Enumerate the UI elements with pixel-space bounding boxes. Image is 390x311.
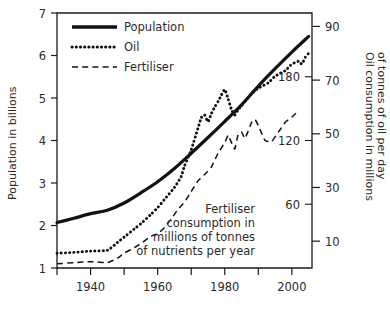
chart-svg: 1234567 1940196019802000 1030507090 6012… — [0, 0, 390, 311]
legend-label-fertiliser: Fertiliser — [124, 60, 174, 74]
left-tick-label: 6 — [39, 49, 46, 63]
right-inner-tick-label: 60 — [285, 198, 300, 212]
legend-label-population: Population — [124, 20, 184, 34]
left-tick-label: 5 — [39, 92, 46, 106]
left-axis-title-text: Population in billions — [6, 86, 19, 200]
chart-container: 1234567 1940196019802000 1030507090 6012… — [0, 0, 390, 311]
legend-label-oil: Oil — [124, 40, 139, 54]
right-axis-title-line2: of tonnes of oil per day — [375, 52, 388, 180]
fertiliser-annotation-line4: of nutrients per year — [136, 244, 255, 258]
legend: Population Oil Fertiliser — [72, 20, 184, 74]
left-tick-label: 7 — [39, 7, 46, 21]
left-tick-label: 1 — [39, 262, 46, 276]
left-tick-label: 3 — [39, 177, 46, 191]
bottom-axis-ticks: 1940196019802000 — [57, 268, 307, 294]
left-tick-label: 2 — [39, 219, 46, 233]
series-population-line — [57, 36, 309, 222]
right-outer-axis-ticks: 1030507090 — [312, 20, 340, 249]
right-outer-tick-label: 70 — [325, 74, 340, 88]
right-axis-title-line1: Oil consumption in millions — [363, 52, 376, 201]
fertiliser-annotation-line3: millions of tonnes — [153, 230, 255, 244]
fertiliser-annotation: Fertiliser consumption in millions of to… — [136, 202, 255, 258]
right-axis-title: Oil consumption in millions of tonnes of… — [363, 52, 388, 201]
right-outer-tick-label: 30 — [325, 181, 340, 195]
fertiliser-annotation-line1: Fertiliser — [205, 202, 255, 216]
right-inner-axis-ticks: 60120180 — [278, 70, 312, 212]
right-inner-tick-label: 120 — [278, 134, 300, 148]
right-outer-tick-label: 90 — [325, 20, 340, 34]
right-outer-tick-label: 10 — [325, 235, 340, 249]
bottom-tick-label: 2000 — [277, 280, 306, 294]
bottom-tick-label: 1980 — [210, 280, 239, 294]
left-axis-ticks: 1234567 — [39, 7, 57, 276]
left-axis-title: Population in billions — [6, 86, 19, 200]
fertiliser-annotation-line2: consumption in — [166, 216, 255, 230]
right-outer-tick-label: 50 — [325, 127, 340, 141]
bottom-tick-label: 1960 — [143, 280, 172, 294]
left-tick-label: 4 — [39, 134, 46, 148]
bottom-tick-label: 1940 — [76, 280, 105, 294]
